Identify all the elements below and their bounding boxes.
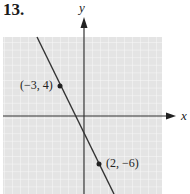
point-label-neg3-4: (−3, 4) <box>20 78 53 93</box>
point-label-2-neg6: (2, −6) <box>106 156 139 171</box>
point-2-neg6 <box>97 162 102 167</box>
x-axis-label: x <box>181 108 187 124</box>
y-axis-arrow-icon <box>81 17 88 28</box>
point-neg3-4 <box>58 84 63 89</box>
coordinate-plane <box>0 0 190 194</box>
y-axis-label: y <box>79 0 85 16</box>
x-axis-arrow-icon <box>166 113 176 120</box>
